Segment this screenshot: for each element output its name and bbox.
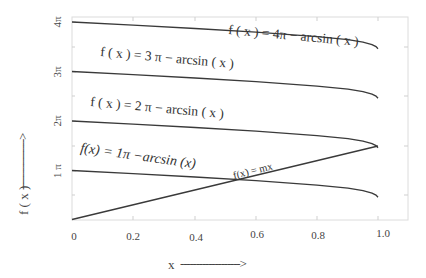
arcsin-chart: f ( x ) = 4π − arcsin ( x ) f ( x ) = 3 … xyxy=(0,0,426,278)
y-tick-3pi: 3π xyxy=(51,66,63,78)
y-tick-1pi: 1 π xyxy=(51,164,63,178)
x-axis-title: x xyxy=(168,257,175,272)
x-tick-0.4: 0.4 xyxy=(189,231,203,243)
x-axis-arrow: -------------------> xyxy=(180,256,246,271)
x-tick-0.2: 0.2 xyxy=(126,230,140,242)
curve-1pi-minus-arcsin xyxy=(72,171,378,198)
label-curve-1pi: f(x) = 1π −arcsin (x) xyxy=(79,140,197,172)
label-line-mx: f(x) = mx xyxy=(232,160,275,182)
y-axis-arrow: ----------------> xyxy=(15,133,30,190)
x-tick-0.8: 0.8 xyxy=(311,229,325,241)
label-curve-3pi: f ( x ) = 3 π − arcsin ( x ) xyxy=(100,44,235,71)
y-tick-2pi: 2π xyxy=(51,115,63,127)
x-tick-marks xyxy=(133,17,378,220)
curve-2pi-minus-arcsin xyxy=(72,121,378,148)
y-tick-4pi: 4π xyxy=(51,16,63,28)
x-tick-0.6: 0.6 xyxy=(250,228,264,240)
label-curve-4pi: f ( x ) = 4π − arcsin ( x ) xyxy=(228,22,360,49)
label-curve-2pi: f ( x ) = 2 π − arcsin ( x ) xyxy=(90,94,225,121)
curve-3pi-minus-arcsin xyxy=(72,72,378,99)
x-tick-0: 0 xyxy=(71,230,77,242)
x-tick-1.0: 1.0 xyxy=(376,227,390,239)
